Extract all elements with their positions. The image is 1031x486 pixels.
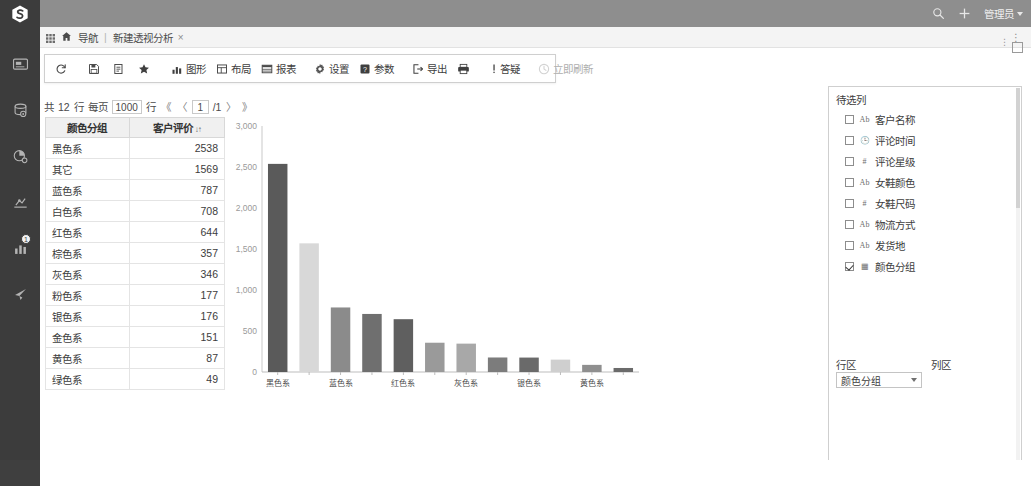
- next-page-button[interactable]: 〉: [225, 99, 237, 114]
- bar[interactable]: [519, 358, 538, 372]
- smartbi-logo[interactable]: [0, 0, 40, 27]
- close-icon[interactable]: ×: [176, 32, 186, 43]
- current-page-input[interactable]: 1: [192, 100, 209, 114]
- bar[interactable]: [456, 344, 475, 372]
- sidebar-item-dataset[interactable]: [0, 133, 40, 179]
- cell-group: 金色系: [46, 327, 130, 348]
- report-button[interactable]: 报表: [257, 59, 300, 78]
- settings-button[interactable]: 设置: [310, 59, 353, 78]
- bar[interactable]: [614, 368, 633, 372]
- user-menu[interactable]: 管理员: [984, 6, 1023, 21]
- tab-strip: 导航 | 新建透视分析 × ⋮: [40, 27, 1031, 48]
- bar[interactable]: [582, 365, 601, 372]
- table-row[interactable]: 白色系708: [46, 201, 225, 222]
- field-type-icon: 🕒: [859, 136, 870, 145]
- x-axis-tick-label: 灰色系: [454, 378, 478, 388]
- first-page-button[interactable]: 《: [160, 99, 172, 114]
- bar[interactable]: [425, 343, 444, 372]
- chart-button[interactable]: 图形: [167, 59, 210, 78]
- table-row[interactable]: 其它1569: [46, 159, 225, 180]
- column-header-value[interactable]: 客户评价↓↑: [129, 118, 224, 138]
- field-item[interactable]: #女鞋尺码: [845, 193, 1020, 214]
- pie-chart-icon: [12, 148, 29, 165]
- table-row[interactable]: 黄色系87: [46, 348, 225, 369]
- favorite-button[interactable]: [134, 61, 157, 77]
- save-as-button[interactable]: [109, 61, 132, 77]
- database-icon: [12, 102, 29, 119]
- sidebar-item-mining[interactable]: [0, 179, 40, 225]
- field-checkbox[interactable]: [845, 157, 854, 166]
- field-type-icon: Ab: [859, 220, 870, 229]
- home-icon[interactable]: [61, 31, 72, 44]
- nav-label[interactable]: 导航: [78, 30, 98, 45]
- panel-scrollbar-thumb[interactable]: [1016, 88, 1020, 208]
- last-page-button[interactable]: 》: [241, 99, 253, 114]
- plus-icon[interactable]: [958, 7, 971, 20]
- per-page-input[interactable]: 1000: [112, 100, 142, 114]
- bar[interactable]: [362, 314, 381, 372]
- bar[interactable]: [488, 357, 507, 372]
- field-item[interactable]: Ab物流方式: [845, 214, 1020, 235]
- y-axis-tick-label: 2,500: [236, 162, 258, 172]
- field-item[interactable]: Ab客户名称: [845, 109, 1020, 130]
- field-item[interactable]: ▦颜色分组: [845, 256, 1020, 277]
- rows-unit: 行: [74, 99, 84, 114]
- sort-icon[interactable]: ↓↑: [195, 125, 201, 134]
- per-page-unit: 行: [146, 99, 156, 114]
- tab-new-pivot-analysis[interactable]: 新建透视分析 ×: [113, 30, 186, 45]
- bar[interactable]: [551, 360, 570, 372]
- table-row[interactable]: 黑色系2538: [46, 138, 225, 159]
- tab-separator: |: [104, 31, 107, 43]
- refresh-now-button[interactable]: 立即刷新: [534, 59, 597, 78]
- table-row[interactable]: 灰色系346: [46, 264, 225, 285]
- field-checkbox[interactable]: [845, 241, 854, 250]
- settings-label: 设置: [329, 61, 349, 76]
- bar[interactable]: [299, 243, 318, 372]
- print-button[interactable]: [453, 61, 477, 77]
- table-row[interactable]: 银色系176: [46, 306, 225, 327]
- panel-overflow-icon[interactable]: ⋮: [1000, 40, 1009, 44]
- sidebar-item-analysis[interactable]: 1: [0, 225, 40, 271]
- table-row[interactable]: 粉色系177: [46, 285, 225, 306]
- sidebar-item-dashboard[interactable]: [0, 41, 40, 87]
- field-config-panel: 待选列 Ab客户名称🕒评论时间#评论星级Ab女鞋颜色#女鞋尺码Ab物流方式Ab发…: [828, 86, 1022, 461]
- panel-scrollbar[interactable]: [1016, 88, 1020, 461]
- panel-toggle-icon[interactable]: [1012, 42, 1023, 53]
- bar[interactable]: [268, 164, 287, 372]
- save-button[interactable]: [84, 61, 107, 77]
- field-checkbox[interactable]: [845, 115, 854, 124]
- search-icon[interactable]: [932, 7, 945, 20]
- field-checkbox[interactable]: [845, 136, 854, 145]
- table-row[interactable]: 红色系644: [46, 222, 225, 243]
- bar[interactable]: [394, 319, 413, 372]
- column-header-group[interactable]: 颜色分组: [46, 118, 130, 138]
- field-item[interactable]: 🕒评论时间: [845, 130, 1020, 151]
- sidebar-item-share[interactable]: [0, 271, 40, 317]
- table-row[interactable]: 棕色系357: [46, 243, 225, 264]
- table-row[interactable]: 金色系151: [46, 327, 225, 348]
- bottom-strip: [0, 460, 1031, 486]
- field-item[interactable]: Ab女鞋颜色: [845, 172, 1020, 193]
- field-checkbox[interactable]: [845, 178, 854, 187]
- field-item[interactable]: #评论星级: [845, 151, 1020, 172]
- field-item[interactable]: Ab发货地: [845, 235, 1020, 256]
- column-header-group-label: 颜色分组: [67, 122, 107, 134]
- grid-icon[interactable]: [46, 33, 55, 42]
- refresh-button[interactable]: [51, 61, 74, 77]
- field-checkbox[interactable]: [845, 199, 854, 208]
- field-checkbox[interactable]: [845, 220, 854, 229]
- bar[interactable]: [331, 307, 350, 372]
- parameter-button[interactable]: ? 参数: [355, 59, 398, 78]
- layout-button[interactable]: 布局: [212, 59, 255, 78]
- sidebar-item-datasource[interactable]: [0, 87, 40, 133]
- export-button[interactable]: 导出: [408, 59, 451, 78]
- row-area-select[interactable]: 颜色分组: [836, 372, 922, 388]
- prev-page-button[interactable]: 〈: [176, 99, 188, 114]
- cell-group: 粉色系: [46, 285, 130, 306]
- x-axis-tick-label: 红色系: [391, 378, 415, 388]
- field-checkbox[interactable]: [845, 262, 854, 271]
- y-axis-tick-label: 500: [243, 326, 257, 336]
- table-row[interactable]: 蓝色系787: [46, 180, 225, 201]
- table-row[interactable]: 绿色系49: [46, 369, 225, 390]
- help-button[interactable]: 答疑: [487, 59, 524, 78]
